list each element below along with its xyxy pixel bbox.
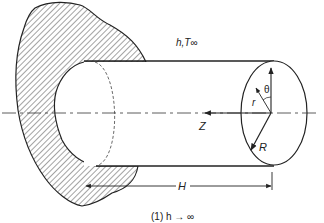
- theta-label: θ: [264, 85, 270, 95]
- cylinder-diagram: [0, 0, 324, 223]
- convection-label: h,T∞: [176, 38, 198, 48]
- H-label: H: [178, 181, 186, 192]
- r-label: r: [252, 98, 255, 108]
- caption: (1) h → ∞: [151, 212, 194, 222]
- z-label: Z: [199, 121, 206, 132]
- R-label: R: [259, 142, 267, 153]
